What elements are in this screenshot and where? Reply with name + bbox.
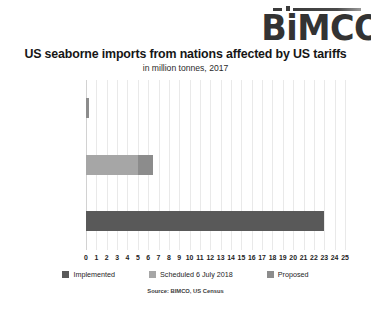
chart-row: Oil products — [86, 80, 345, 137]
x-tick-label: 25 — [337, 254, 353, 261]
chart-row: Dry bulk products — [86, 193, 345, 250]
legend-label: Scheduled 6 July 2018 — [160, 270, 233, 279]
chart-row: Containerised goods — [86, 137, 345, 194]
bar-segment[interactable] — [86, 211, 324, 231]
plot-area: Oil productsContainerised goodsDry bulk … — [86, 80, 345, 250]
legend-item[interactable]: Implemented — [62, 270, 115, 279]
x-axis-tick-labels: 0123456789101112131415161718192021222324… — [86, 254, 345, 266]
chart-area: Oil productsContainerised goodsDry bulk … — [0, 78, 371, 258]
legend-label: Proposed — [278, 270, 309, 279]
bimco-logo: BiMCO — [269, 6, 365, 44]
legend-swatch — [149, 271, 156, 278]
source-note: Source: BIMCO, US Census — [0, 288, 371, 294]
chart-legend: ImplementedScheduled 6 July 2018Proposed — [0, 270, 371, 279]
bar-segment[interactable] — [86, 98, 89, 118]
gridline — [345, 80, 346, 250]
legend-item[interactable]: Proposed — [267, 270, 309, 279]
bar[interactable] — [86, 211, 324, 231]
legend-swatch — [62, 271, 69, 278]
legend-swatch — [267, 271, 274, 278]
bar[interactable] — [86, 98, 89, 118]
bar-segment[interactable] — [86, 155, 138, 175]
bar-segment[interactable] — [138, 155, 154, 175]
bar[interactable] — [86, 155, 153, 175]
chart-subtitle: in million tonnes, 2017 — [0, 63, 371, 73]
logo-wordmark: BiMCO — [261, 11, 365, 46]
legend-label: Implemented — [73, 270, 115, 279]
legend-item[interactable]: Scheduled 6 July 2018 — [149, 270, 233, 279]
chart-title: US seaborne imports from nations affecte… — [0, 47, 371, 61]
